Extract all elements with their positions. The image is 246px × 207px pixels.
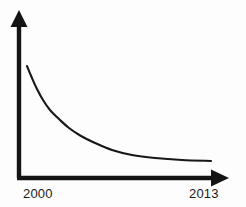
horizontal-axis-arrowhead-icon: [211, 170, 229, 187]
decay-curve-chart: 2000 2013: [0, 0, 246, 207]
x-axis-tick-label-end: 2013: [189, 187, 219, 200]
vertical-axis-arrowhead-icon: [11, 10, 28, 27]
chart-plot-area: [0, 0, 246, 207]
decay-curve-line: [27, 66, 211, 161]
x-axis-tick-label-start: 2000: [23, 187, 53, 200]
